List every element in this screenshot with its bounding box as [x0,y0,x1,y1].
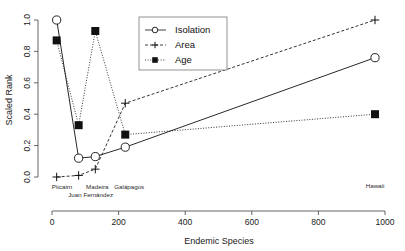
x-axis-tick-label: 1000 [376,217,395,227]
marker-filled-square [53,36,61,44]
marker-filled-square [371,110,379,118]
legend-label-area: Area [175,39,196,50]
x-axis-tick-label: 600 [245,217,259,227]
x-axis-tick-label: 400 [178,217,192,227]
x-axis-tick-label: 0 [50,217,55,227]
point-label-juan-fern-ndez: Juan Fernández [68,191,113,198]
y-axis-title: Scaled Rank [4,74,14,126]
legend-marker-filled-square [152,57,158,63]
marker-open-circle [91,152,99,160]
point-label-gal-pagos: Galápagos [114,183,144,190]
x-axis-title: Endemic Species [184,236,254,246]
marker-open-circle [371,54,379,62]
y-axis-tick-label: 0.2 [22,139,32,151]
marker-open-circle [53,16,61,24]
y-axis-tick-label: 0.0 [22,171,32,183]
y-axis-tick-label: 0.6 [22,77,32,89]
point-label-madeira: Madeira [86,183,109,190]
marker-filled-square [121,131,129,139]
marker-filled-square [75,121,83,129]
chart-container: 0.00.20.40.60.81.0 02004006008001000 Pit… [0,0,405,251]
x-axis-tick-label: 800 [311,217,325,227]
marker-open-circle [75,154,83,162]
y-axis-tick-label: 0.8 [22,45,32,57]
legend-label-isolation: Isolation [175,24,210,35]
point-label-hawaii: Hawaii [366,182,385,189]
legend-label-age: Age [175,54,192,65]
marker-filled-square [91,27,99,35]
legend-marker-open-circle [152,27,158,33]
point-label-pitcairn: Pitcairn [52,183,73,190]
y-axis-tick-label: 0.4 [22,108,32,120]
x-axis-tick-label: 200 [112,217,126,227]
y-axis-tick-label: 1.0 [22,14,32,26]
chart-legend: IsolationAreaAge [139,17,227,70]
marker-open-circle [121,143,129,151]
scatter-line-chart: 0.00.20.40.60.81.0 02004006008001000 Pit… [0,0,405,251]
